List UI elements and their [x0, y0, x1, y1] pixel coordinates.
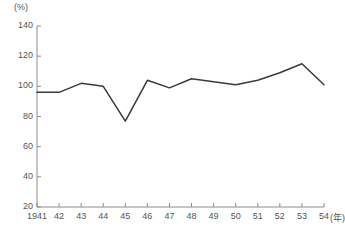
y-axis-tick-label: 120 [7, 50, 33, 60]
y-axis-tick-label: 80 [7, 111, 33, 121]
x-axis-tick-label: 50 [231, 211, 241, 221]
data-series-line [37, 64, 324, 121]
y-axis-tick-label: 20 [7, 201, 33, 211]
x-axis-tick-label: 47 [164, 211, 174, 221]
y-axis-tick-label: 40 [7, 171, 33, 181]
x-axis-tick-label: 51 [253, 211, 263, 221]
x-axis-tick-label: 53 [297, 211, 307, 221]
x-axis-tick-label: 44 [98, 211, 108, 221]
x-axis-tick-label: 43 [76, 211, 86, 221]
x-axis-tick-label: 48 [187, 211, 197, 221]
x-axis-tick-label: 54 [319, 211, 329, 221]
y-axis-tick-label: 140 [7, 20, 33, 30]
x-axis-tick-label: 42 [54, 211, 64, 221]
x-axis-tick-label: 49 [209, 211, 219, 221]
y-axis-tick-label: 60 [7, 141, 33, 151]
x-axis-tick-label: 46 [142, 211, 152, 221]
x-axis-tick-label: 1941 [27, 211, 47, 221]
y-axis-tick-label: 100 [7, 80, 33, 90]
x-axis-tick-label: 52 [275, 211, 285, 221]
x-axis-tick-label: 45 [120, 211, 130, 221]
x-axis-unit-label: (年) [330, 211, 345, 224]
